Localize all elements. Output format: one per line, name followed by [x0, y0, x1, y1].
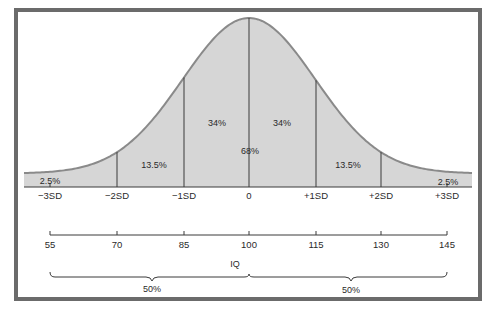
pct-2sd-right: 13.5% — [335, 160, 361, 170]
pct-2sd-left: 13.5% — [141, 160, 167, 170]
iq-tick-130: 130 — [373, 239, 389, 250]
sd-label-neg1: −1SD — [172, 190, 196, 201]
half-left-label: 50% — [143, 284, 161, 294]
normal-distribution-chart: 2.5% 13.5% 34% 34% 68% 13.5% 2.5% −3SD −… — [0, 0, 491, 313]
sd-label-neg2: −2SD — [105, 190, 129, 201]
pct-1sd-left: 34% — [208, 118, 226, 128]
iq-tick-85: 85 — [179, 239, 190, 250]
pct-1sd-right: 34% — [273, 118, 291, 128]
sd-label-zero: 0 — [246, 190, 251, 201]
sd-label-pos3: +3SD — [435, 190, 459, 201]
iq-tick-55: 55 — [45, 239, 56, 250]
half-right-label: 50% — [342, 285, 360, 295]
iq-tick-115: 115 — [308, 239, 323, 250]
sd-label-neg3: −3SD — [38, 190, 62, 201]
sd-label-pos1: +1SD — [304, 190, 328, 201]
iq-tick-100: 100 — [241, 239, 257, 250]
iq-tick-145: 145 — [439, 239, 455, 250]
pct-tail-right: 2.5% — [438, 177, 459, 187]
pct-tail-left: 2.5% — [40, 176, 61, 186]
iq-tick-70: 70 — [112, 239, 123, 250]
sd-label-pos2: +2SD — [369, 190, 393, 201]
pct-center: 68% — [241, 146, 259, 156]
iq-axis-title: IQ — [230, 259, 240, 269]
